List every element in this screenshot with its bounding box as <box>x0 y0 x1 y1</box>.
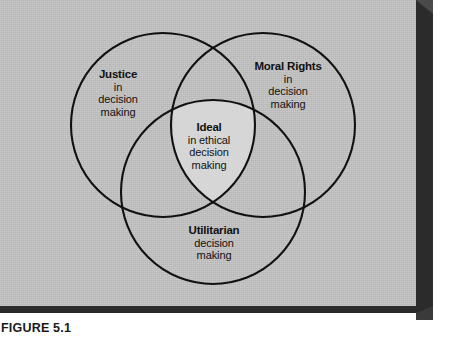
label-justice-line-2: decision <box>64 93 172 105</box>
label-ideal-line-2: decision <box>154 146 264 158</box>
label-moral-rights-line-3: making <box>225 98 351 110</box>
label-moral-rights-line-1: in <box>225 73 351 85</box>
label-justice-line-3: making <box>64 106 172 118</box>
figure-container: Justice in decision making Moral Rights … <box>0 0 449 338</box>
label-justice: Justice in decision making <box>64 68 172 118</box>
caption-divider-rule <box>0 306 416 313</box>
label-moral-rights-line-2: decision <box>225 85 351 97</box>
label-ideal-line-1: in ethical <box>154 134 264 146</box>
label-utilitarian: Utilitarian decision making <box>150 224 278 262</box>
label-ideal-line-3: making <box>154 159 264 171</box>
illustration-panel: Justice in decision making Moral Rights … <box>0 0 416 306</box>
label-justice-heading: Justice <box>64 68 172 81</box>
label-ideal-heading: Ideal <box>154 121 264 134</box>
label-utilitarian-line-2: making <box>150 249 278 261</box>
figure-caption: FIGURE 5.1 <box>1 321 71 335</box>
label-moral-rights: Moral Rights in decision making <box>225 60 351 110</box>
label-justice-line-1: in <box>64 81 172 93</box>
label-utilitarian-line-1: decision <box>150 237 278 249</box>
label-ideal: Ideal in ethical decision making <box>154 121 264 171</box>
label-utilitarian-heading: Utilitarian <box>150 224 278 237</box>
label-moral-rights-heading: Moral Rights <box>225 60 351 73</box>
